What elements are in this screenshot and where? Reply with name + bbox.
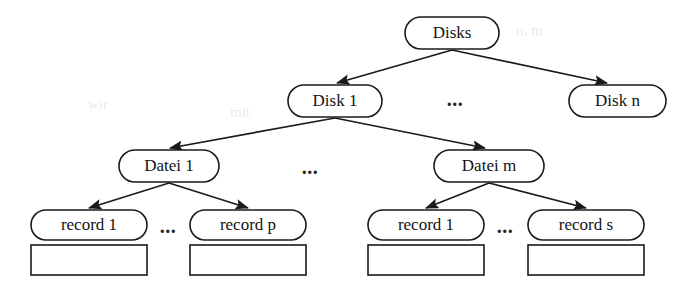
ellipsis-datei-level-ellipsis: ... [302,156,319,178]
node-record-body-p [190,245,306,275]
edge-datei-1-to-record-1-left [89,183,169,208]
edge-datei-m-to-record-s [489,183,586,208]
node-label-record-1-left: record 1 [61,215,117,234]
node-record-p: record p [190,210,306,240]
edge-datei-1-to-record-p [169,183,248,208]
node-layer: DisksDisk 1Disk nDatei 1Datei mrecord 1r… [31,17,666,275]
node-label-record-p: record p [220,215,276,234]
edge-datei-m-to-record-1-right [426,183,489,208]
node-box-plain [528,245,644,275]
node-record-1-left: record 1 [31,210,147,240]
node-label-disk-n: Disk n [595,91,640,110]
node-datei-1: Datei 1 [119,150,219,182]
ellipsis-record-level-ellipsis_right: ... [497,215,514,237]
node-box-plain [368,245,484,275]
node-label-record-1-right: record 1 [398,215,454,234]
node-record-1-right: record 1 [368,210,484,240]
node-record-body-1-right [368,245,484,275]
node-label-disks: Disks [433,23,472,42]
node-label-record-s: record s [559,215,613,234]
node-box-plain [190,245,306,275]
node-record-body-s [528,245,644,275]
node-datei-m: Datei m [434,150,544,182]
edge-disk-1-to-datei-1 [170,118,335,148]
edge-disks-to-disk-1 [337,50,452,83]
edge-layer [89,50,607,208]
node-disks: Disks [405,17,499,49]
node-record-body-1-left [31,245,147,275]
edge-disks-to-disk-n [452,50,607,83]
node-disk-n: Disk n [569,85,666,117]
hierarchy-tree-diagram: DisksDisk 1Disk nDatei 1Datei mrecord 1r… [0,0,689,295]
ellipsis-record-level-ellipsis_left: ... [160,215,177,237]
diagram-canvas: DisksDisk 1Disk nDatei 1Datei mrecord 1r… [0,0,689,295]
node-disk-1: Disk 1 [288,85,382,117]
edge-disk-1-to-datei-m [335,118,485,148]
node-record-s: record s [528,210,644,240]
node-box-plain [31,245,147,275]
ellipsis-disk-level-ellipsis: ... [447,88,464,110]
node-label-datei-1: Datei 1 [144,156,194,175]
node-label-disk-1: Disk 1 [313,91,358,110]
node-label-datei-m: Datei m [462,156,516,175]
